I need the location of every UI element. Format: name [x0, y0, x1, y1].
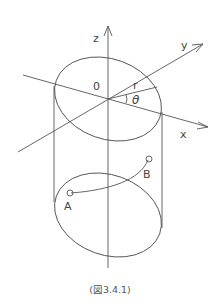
angle-label: θ — [132, 93, 140, 107]
figure-caption: (図3.4.1) — [0, 282, 220, 296]
point-b-label: B — [143, 168, 151, 181]
point-b-marker — [146, 156, 152, 162]
point-a-label: A — [64, 200, 72, 213]
origin-label: 0 — [93, 80, 100, 93]
radius-label: r — [133, 79, 138, 92]
path-a-to-b — [71, 160, 148, 193]
x-axis-label: x — [180, 128, 187, 141]
angle-arc — [126, 95, 127, 103]
x-axis — [23, 75, 208, 127]
cylinder-coordinate-diagram: z y x 0 r θ A B — [0, 0, 220, 307]
z-axis-label: z — [93, 32, 99, 45]
y-axis-label: y — [181, 39, 188, 52]
